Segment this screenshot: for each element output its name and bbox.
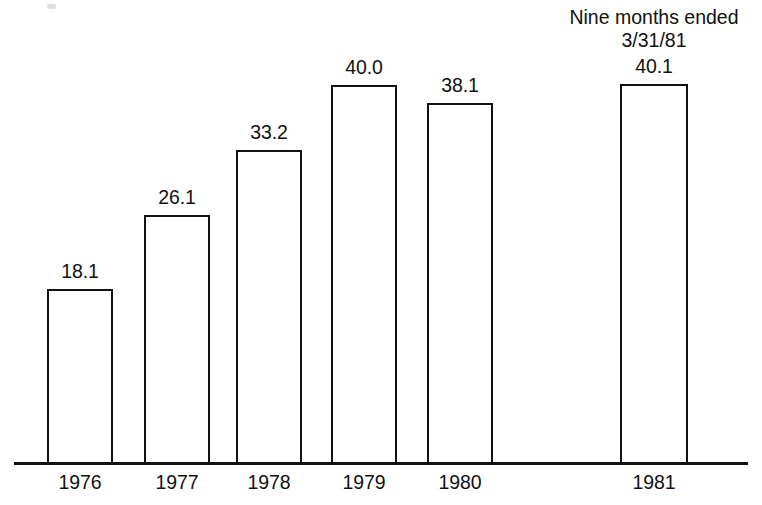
value-label-1981: 40.1: [591, 57, 717, 77]
category-label-1980: 1980: [397, 473, 523, 493]
plot-area: Nine months ended 3/31/81 18.1 26.1 33.2…: [0, 0, 762, 505]
value-label-1977: 26.1: [114, 188, 240, 208]
value-label-1979: 40.0: [301, 58, 427, 78]
category-label-1981: 1981: [591, 473, 717, 493]
bar-1980: [427, 103, 493, 464]
value-label-1978: 33.2: [206, 123, 332, 143]
annotation-nine-months-ended: Nine months ended 3/31/81: [552, 6, 756, 52]
value-label-1976: 18.1: [17, 262, 143, 282]
bar-chart: Nine months ended 3/31/81 18.1 26.1 33.2…: [0, 0, 762, 505]
annotation-line-2: 3/31/81: [552, 29, 756, 52]
bar-1976: [47, 289, 113, 464]
annotation-line-1: Nine months ended: [552, 6, 756, 29]
bar-1979: [331, 85, 397, 464]
bar-1977: [144, 215, 210, 464]
bar-1978: [236, 150, 302, 464]
value-label-1980: 38.1: [397, 76, 523, 96]
bar-1981: [620, 84, 688, 464]
x-axis-baseline: [14, 462, 748, 465]
